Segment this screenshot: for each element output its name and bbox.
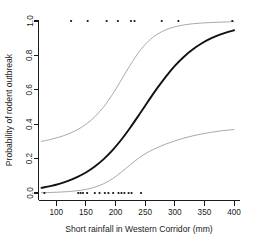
x-tick-label: 100 xyxy=(49,208,63,217)
data-point-no-outbreak xyxy=(107,192,109,194)
data-point-outbreak xyxy=(133,20,135,22)
data-point-no-outbreak xyxy=(127,192,129,194)
x-axis-label: Short rainfall in Western Corridor (mm) xyxy=(65,224,213,234)
x-tick-label: 250 xyxy=(138,208,152,217)
data-point-no-outbreak xyxy=(123,192,125,194)
data-point-outbreak xyxy=(231,20,233,22)
data-point-no-outbreak xyxy=(82,192,84,194)
data-point-no-outbreak xyxy=(120,192,122,194)
data-point-outbreak xyxy=(161,20,163,22)
y-tick-label: 0.2 xyxy=(26,152,35,164)
data-point-no-outbreak xyxy=(98,192,100,194)
y-axis-label: Probability of rodent outbreak xyxy=(4,53,14,166)
data-point-outbreak xyxy=(117,20,119,22)
data-point-no-outbreak xyxy=(79,192,81,194)
x-tick-label: 400 xyxy=(227,208,241,217)
data-point-outbreak xyxy=(87,20,89,22)
y-tick-label: 0.8 xyxy=(26,49,35,61)
data-point-no-outbreak xyxy=(86,192,88,194)
data-point-outbreak xyxy=(177,20,179,22)
chart-figure: 0.00.20.40.60.81.0 100150200250300350400… xyxy=(0,0,257,242)
y-tick-label: 1.0 xyxy=(26,15,35,27)
data-point-no-outbreak xyxy=(104,192,106,194)
x-tick-label: 200 xyxy=(109,208,123,217)
data-point-outbreak xyxy=(70,20,72,22)
logistic-regression-plot: 0.00.20.40.60.81.0 100150200250300350400… xyxy=(0,0,257,242)
data-point-no-outbreak xyxy=(77,192,79,194)
y-tick-label: 0.4 xyxy=(26,118,35,130)
data-point-outbreak xyxy=(106,20,108,22)
data-point-no-outbreak xyxy=(130,192,132,194)
x-tick-label: 350 xyxy=(198,208,212,217)
x-tick-label: 150 xyxy=(79,208,93,217)
data-point-no-outbreak xyxy=(140,192,142,194)
data-point-outbreak xyxy=(130,20,132,22)
x-tick-label: 300 xyxy=(168,208,182,217)
data-point-no-outbreak xyxy=(43,192,45,194)
data-point-no-outbreak xyxy=(117,192,119,194)
data-point-no-outbreak xyxy=(112,192,114,194)
y-tick-label: 0.0 xyxy=(26,187,35,199)
y-tick-label: 0.6 xyxy=(26,84,35,96)
data-point-no-outbreak xyxy=(94,192,96,194)
